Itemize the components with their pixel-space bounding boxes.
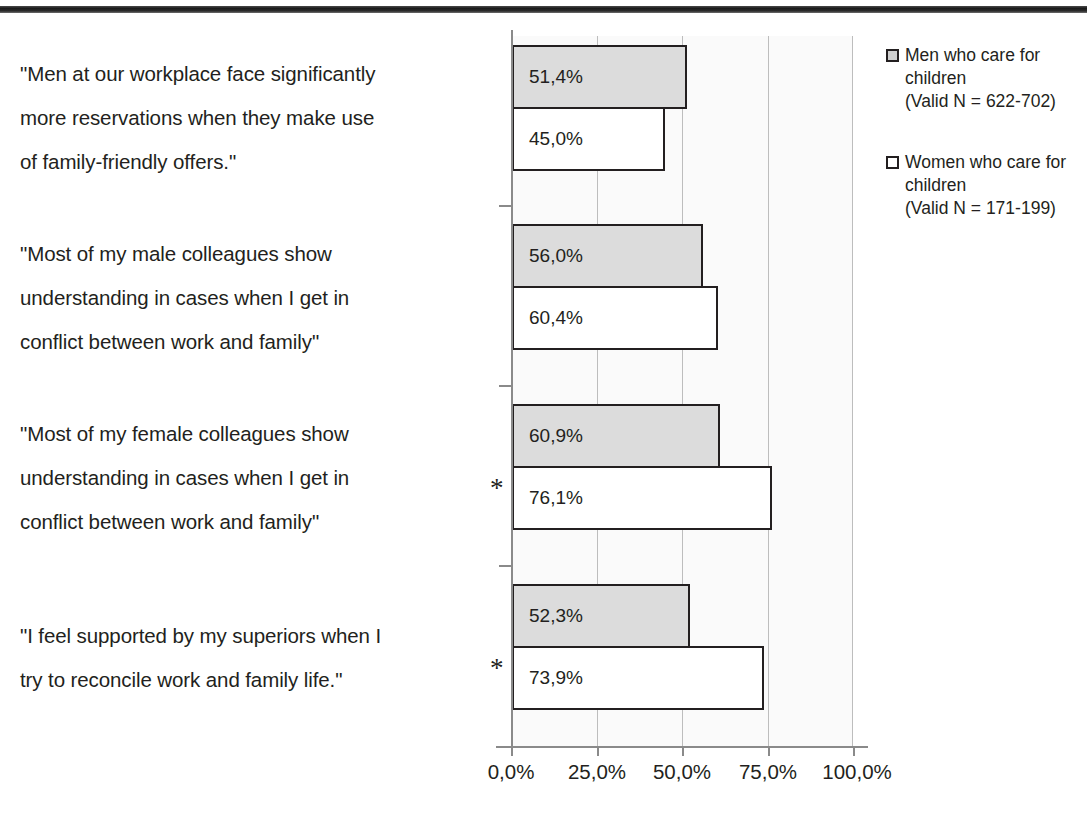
category-label-column: "Men at our workplace face significantly…	[0, 30, 500, 760]
bar-value-women-1: 45,0%	[514, 128, 583, 150]
y-axis-line	[511, 30, 513, 752]
legend-men-line1: Men who care for	[905, 45, 1040, 65]
legend-item-women[interactable]: Women who care for children (Valid N = 1…	[886, 151, 1086, 220]
bar-value-men-3: 60,9%	[514, 425, 583, 447]
bar-men-4[interactable]: 52,3%	[512, 584, 690, 648]
category-label-2-line2: understanding in cases when I get in	[20, 276, 490, 320]
bar-value-women-2: 60,4%	[514, 307, 583, 329]
x-axis-label-50: 50,0%	[653, 760, 711, 784]
bar-men-2[interactable]: 56,0%	[512, 224, 703, 288]
legend-women-line3: (Valid N = 171-199)	[905, 197, 1086, 220]
chart-legend: Men who care for children (Valid N = 622…	[886, 44, 1086, 250]
x-axis-label-100: 100,0%	[822, 760, 892, 784]
x-axis-label-75: 75,0%	[739, 760, 797, 784]
category-label-1: "Men at our workplace face significantly…	[20, 52, 490, 184]
legend-item-women-label: Women who care for children (Valid N = 1…	[905, 151, 1086, 220]
category-label-2: "Most of my male colleagues show underst…	[20, 232, 490, 364]
legend-men-line2: children	[905, 67, 1086, 90]
x-axis-tick-100	[853, 746, 855, 756]
category-label-3-line2: understanding in cases when I get in	[20, 456, 490, 500]
y-axis-tick-3	[499, 565, 512, 567]
bar-women-4[interactable]: 73,9%	[512, 646, 764, 710]
category-label-1-line3: of family-friendly offers."	[20, 140, 490, 184]
bar-women-2[interactable]: 60,4%	[512, 286, 718, 350]
category-label-4-line1: "I feel supported by my superiors when I	[20, 614, 490, 658]
bar-value-women-3: 76,1%	[514, 487, 583, 509]
gridline-100	[852, 36, 853, 746]
category-label-3-line3: conflict between work and family"	[20, 500, 490, 544]
category-label-3-line1: "Most of my female colleagues show	[20, 412, 490, 456]
plot-area: 51,4% 45,0% 56,0% 60,4% 60,9% 76,1% 52,3…	[512, 36, 853, 746]
category-label-4-line2: try to reconcile work and family life."	[20, 658, 490, 702]
legend-women-line2: children	[905, 174, 1086, 197]
category-label-4: "I feel supported by my superiors when I…	[20, 614, 490, 702]
x-axis-label-25: 25,0%	[568, 760, 626, 784]
bar-women-1[interactable]: 45,0%	[512, 107, 665, 171]
bar-women-3[interactable]: 76,1%	[512, 466, 772, 530]
bar-value-men-2: 56,0%	[514, 245, 583, 267]
x-axis-label-0: 0,0%	[488, 760, 535, 784]
page-header-rule	[0, 6, 1087, 13]
gridline-75	[768, 36, 769, 746]
hollow-square-icon	[886, 156, 899, 169]
x-axis-tick-50	[682, 746, 684, 756]
significance-star-category-3: *	[490, 475, 504, 502]
x-axis-labels: 0,0% 25,0% 50,0% 75,0% 100,0%	[440, 760, 920, 794]
x-axis-tick-25	[597, 746, 599, 756]
filled-square-icon	[886, 49, 899, 62]
bar-value-men-4: 52,3%	[514, 605, 583, 627]
bar-value-men-1: 51,4%	[514, 66, 583, 88]
legend-item-men-label: Men who care for children (Valid N = 622…	[905, 44, 1086, 113]
x-axis-tick-0	[511, 746, 513, 756]
legend-item-men[interactable]: Men who care for children (Valid N = 622…	[886, 44, 1086, 113]
chart-page: "Men at our workplace face significantly…	[0, 0, 1087, 821]
significance-star-category-4: *	[490, 655, 504, 682]
bar-value-women-4: 73,9%	[514, 667, 583, 689]
legend-women-line1: Women who care for	[905, 152, 1066, 172]
category-label-2-line3: conflict between work and family"	[20, 320, 490, 364]
category-label-2-line1: "Most of my male colleagues show	[20, 232, 490, 276]
bar-men-3[interactable]: 60,9%	[512, 404, 720, 468]
category-label-1-line1: "Men at our workplace face significantly	[20, 52, 490, 96]
y-axis-tick-2	[499, 385, 512, 387]
x-axis-tick-75	[768, 746, 770, 756]
legend-men-line3: (Valid N = 622-702)	[905, 90, 1086, 113]
y-axis-tick-1	[499, 205, 512, 207]
category-label-1-line2: more reservations when they make use	[20, 96, 490, 140]
category-label-3: "Most of my female colleagues show under…	[20, 412, 490, 544]
bar-men-1[interactable]: 51,4%	[512, 45, 687, 109]
